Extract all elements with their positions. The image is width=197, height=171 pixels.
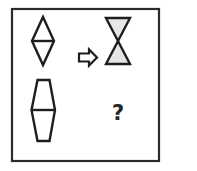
puzzle-frame — [12, 9, 159, 161]
analogy-puzzle: ? — [0, 0, 197, 171]
puzzle-drawing — [0, 0, 197, 171]
hexagon-shape — [32, 80, 56, 141]
answer-placeholder: ? — [109, 100, 127, 126]
